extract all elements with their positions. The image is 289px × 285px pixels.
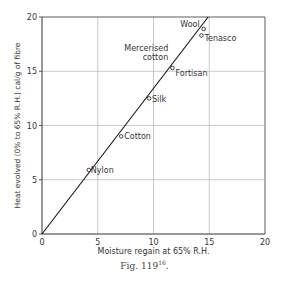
data-point-marker xyxy=(119,135,123,139)
x-tick-label: 5 xyxy=(95,238,100,247)
data-point-marker xyxy=(147,97,151,101)
data-point-label: Wool xyxy=(180,20,199,29)
x-axis-label: Moisture regain at 65% R.H. xyxy=(98,247,210,256)
data-point-label: Nylon xyxy=(91,166,114,175)
caption-text: Fig. 119 xyxy=(120,261,158,271)
x-tick-label: 10 xyxy=(148,238,158,247)
data-point-label: Tenasco xyxy=(203,34,236,43)
y-tick-label: 0 xyxy=(32,230,37,239)
x-tick-label: 20 xyxy=(260,238,270,247)
data-point-marker xyxy=(202,27,206,31)
y-tick-label: 5 xyxy=(32,176,37,185)
data-point-marker xyxy=(171,66,175,70)
data-point-label: Cotton xyxy=(124,132,151,141)
data-point-label: Silk xyxy=(152,95,167,104)
y-tick-label: 15 xyxy=(27,67,37,76)
caption-suffix: . xyxy=(166,261,169,271)
chart-figure: 0510152005101520 NylonCottonSilkMerceris… xyxy=(0,0,289,285)
x-tick-label: 0 xyxy=(39,238,44,247)
x-tick-label: 15 xyxy=(204,238,214,247)
data-point-marker xyxy=(200,34,204,38)
caption-superscript: 16 xyxy=(158,259,166,266)
data-point-label: cotton xyxy=(143,53,169,62)
data-point-label: Mercerised xyxy=(124,44,168,53)
y-tick-label: 20 xyxy=(27,13,37,22)
data-points: NylonCottonSilkMercerisedcottonFortisanT… xyxy=(87,20,236,175)
data-point-label: Fortisan xyxy=(175,69,207,78)
y-tick-label: 10 xyxy=(27,122,37,131)
y-axis-label: Heat evolved (0% to 65% R.H.) cal/g of f… xyxy=(13,42,22,208)
figure-caption: Fig. 11916. xyxy=(0,259,289,271)
